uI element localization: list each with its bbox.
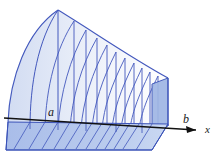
x-axis-label: x <box>205 124 210 135</box>
solid-cross-sections-diagram <box>0 0 218 158</box>
x-axis-arrowhead <box>186 126 196 133</box>
figure-canvas: a b x <box>0 0 218 158</box>
solid-silhouette-fill <box>8 10 168 124</box>
upper-limit-label: b <box>183 113 189 125</box>
solid-upper-body <box>8 10 168 133</box>
lower-limit-label: a <box>48 106 54 118</box>
